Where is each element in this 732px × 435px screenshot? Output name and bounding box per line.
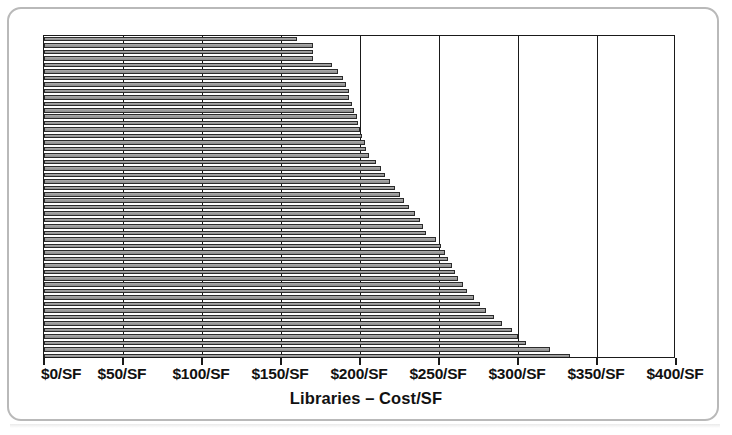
- bar: [44, 257, 448, 262]
- tick-label-350: $350/SF: [567, 365, 624, 383]
- bar: [44, 328, 512, 333]
- bar: [44, 224, 423, 229]
- tick-label-300: $300/SF: [488, 365, 545, 383]
- bar: [44, 114, 357, 119]
- bar: [44, 108, 354, 113]
- tick-label-100: $100/SF: [172, 365, 229, 383]
- bar: [44, 295, 474, 300]
- bar: [44, 69, 338, 74]
- tick-label-150: $150/SF: [251, 365, 308, 383]
- tick-150: [280, 358, 282, 365]
- bar: [44, 341, 526, 346]
- tick-label-0: $0/SF: [41, 365, 81, 383]
- bar: [44, 289, 467, 294]
- bar: [44, 160, 376, 165]
- bar: [44, 205, 409, 210]
- tick-label-200: $200/SF: [330, 365, 387, 383]
- bar-series: [44, 36, 674, 357]
- bar: [44, 244, 441, 249]
- x-axis-title: Libraries – Cost/SF: [0, 389, 732, 408]
- bar: [44, 192, 400, 197]
- bar: [44, 43, 313, 48]
- bar: [44, 282, 463, 287]
- tick-label-250: $250/SF: [409, 365, 466, 383]
- tick-label-50: $50/SF: [98, 365, 147, 383]
- bar: [44, 211, 415, 216]
- bar: [44, 166, 381, 171]
- card-shadow: [10, 424, 720, 428]
- bar: [44, 186, 395, 191]
- bar: [44, 56, 313, 61]
- bar: [44, 270, 455, 275]
- bar: [44, 82, 346, 87]
- bar: [44, 334, 518, 339]
- tick-label-400: $400/SF: [646, 365, 703, 383]
- bar: [44, 263, 452, 268]
- bar: [44, 153, 369, 158]
- bar: [44, 173, 385, 178]
- bar: [44, 89, 349, 94]
- tick-400: [675, 358, 677, 365]
- chart-screenshot: $0/SF$50/SF$100/SF$150/SF$200/SF$250/SF$…: [0, 0, 732, 435]
- bar: [44, 198, 404, 203]
- bar: [44, 50, 313, 55]
- bar: [44, 127, 360, 132]
- tick-100: [201, 358, 203, 365]
- bar: [44, 250, 445, 255]
- bar: [44, 147, 366, 152]
- bar: [44, 315, 494, 320]
- tick-0: [43, 358, 45, 365]
- bar: [44, 347, 550, 352]
- tick-300: [517, 358, 519, 365]
- bar: [44, 321, 502, 326]
- bar: [44, 237, 436, 242]
- bar: [44, 76, 343, 81]
- bar: [44, 37, 297, 42]
- bar: [44, 134, 362, 139]
- bar: [44, 308, 486, 313]
- bar: [44, 302, 480, 307]
- bar: [44, 140, 365, 145]
- tick-200: [359, 358, 361, 365]
- tick-50: [122, 358, 124, 365]
- bar: [44, 231, 426, 236]
- tick-350: [596, 358, 598, 365]
- bar: [44, 276, 458, 281]
- plot-area: [43, 35, 675, 358]
- tick-250: [438, 358, 440, 365]
- bar: [44, 95, 349, 100]
- bar: [44, 121, 358, 126]
- bar: [44, 63, 332, 68]
- bar: [44, 179, 390, 184]
- bar: [44, 102, 352, 107]
- bar: [44, 218, 420, 223]
